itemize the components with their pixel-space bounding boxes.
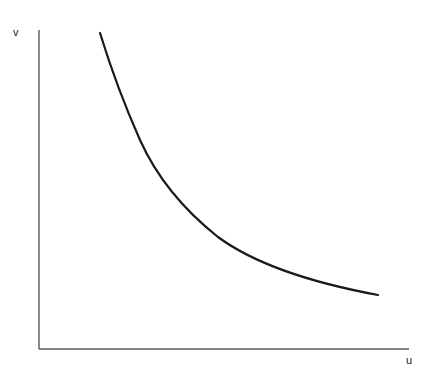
x-axis-label: u xyxy=(406,355,412,366)
plot-canvas xyxy=(0,0,430,372)
chart-figure: v u xyxy=(0,0,430,372)
y-axis-label: v xyxy=(13,27,19,38)
data-curve xyxy=(100,33,378,295)
